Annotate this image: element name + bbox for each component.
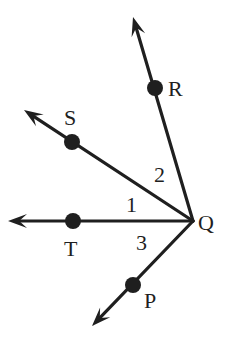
angle-diagram: Q RSTP123: [0, 0, 232, 343]
arrowhead-icon: [24, 110, 44, 126]
point-p: [125, 277, 141, 293]
points: [64, 80, 163, 293]
point-label-r: R: [168, 76, 183, 101]
point-label-p: P: [144, 288, 156, 313]
point-t: [65, 213, 81, 229]
point-r: [147, 80, 163, 96]
angle-label-3: 3: [136, 230, 147, 255]
angle-label-2: 2: [154, 162, 165, 187]
ray-qs: [34, 117, 193, 221]
rays: [8, 17, 193, 326]
vertex-label-q: Q: [198, 210, 214, 235]
point-label-s: S: [64, 105, 76, 130]
point-s: [64, 134, 80, 150]
angle-label-1: 1: [126, 192, 137, 217]
point-label-t: T: [64, 236, 78, 261]
ray-qr: [136, 29, 193, 221]
